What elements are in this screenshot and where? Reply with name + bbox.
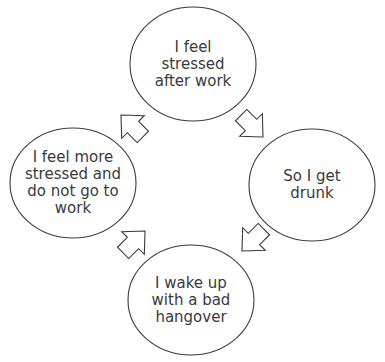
node-left-label: I feel more stressed and do not go to wo… <box>13 139 133 227</box>
node-bottom-label: I wake up with a bad hangover <box>133 256 249 344</box>
node-right-label: So I get drunk <box>254 141 370 229</box>
node-top-label: I feel stressed after work <box>135 20 251 108</box>
